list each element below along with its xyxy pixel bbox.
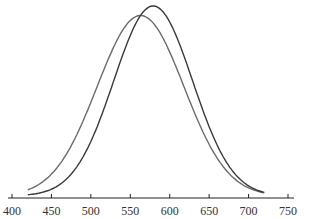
x-tick-label: 500 bbox=[82, 204, 100, 218]
curves bbox=[28, 6, 264, 195]
x-tick-label: 550 bbox=[121, 204, 139, 218]
x-tick-label: 700 bbox=[240, 204, 258, 218]
distribution-curve bbox=[28, 6, 264, 195]
x-tick-label: 450 bbox=[42, 204, 60, 218]
normal-curves-chart: 400450500550600650700750 bbox=[0, 0, 309, 219]
x-tick-label: 650 bbox=[200, 204, 218, 218]
x-tick-label: 400 bbox=[3, 204, 21, 218]
x-tick-label: 600 bbox=[161, 204, 179, 218]
x-tick-label: 750 bbox=[279, 204, 297, 218]
